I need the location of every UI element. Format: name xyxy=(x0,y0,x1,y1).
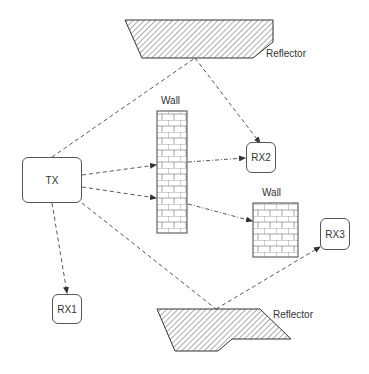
path-wall-to-small-wall xyxy=(188,204,252,221)
reflector-top-label: Reflector xyxy=(266,48,306,59)
rx3-label: RX3 xyxy=(325,229,344,240)
path-tx-to-wall-lower xyxy=(82,187,156,198)
path-tx-to-rx1 xyxy=(52,203,67,293)
reflector-bottom-label: Reflector xyxy=(273,309,313,320)
rx2-label: RX2 xyxy=(251,152,270,163)
path-top-reflector-to-rx2 xyxy=(195,58,260,143)
wall-small-label: Wall xyxy=(262,187,281,198)
rx1-label: RX1 xyxy=(57,304,76,315)
wall-small xyxy=(253,203,298,257)
rx3-node: RX3 xyxy=(320,218,350,250)
wall-large-label: Wall xyxy=(161,95,180,106)
rx2-node: RX2 xyxy=(246,142,276,173)
path-tx-to-bottom-reflector xyxy=(82,203,216,309)
tx-node: TX xyxy=(22,157,82,203)
rx1-node: RX1 xyxy=(52,294,82,324)
reflector-bottom xyxy=(157,309,291,351)
reflector-top xyxy=(125,20,273,58)
path-tx-to-wall-upper xyxy=(82,165,156,175)
wall-large xyxy=(157,111,187,233)
path-wall-to-rx2 xyxy=(188,158,245,162)
tx-label: TX xyxy=(46,175,59,186)
